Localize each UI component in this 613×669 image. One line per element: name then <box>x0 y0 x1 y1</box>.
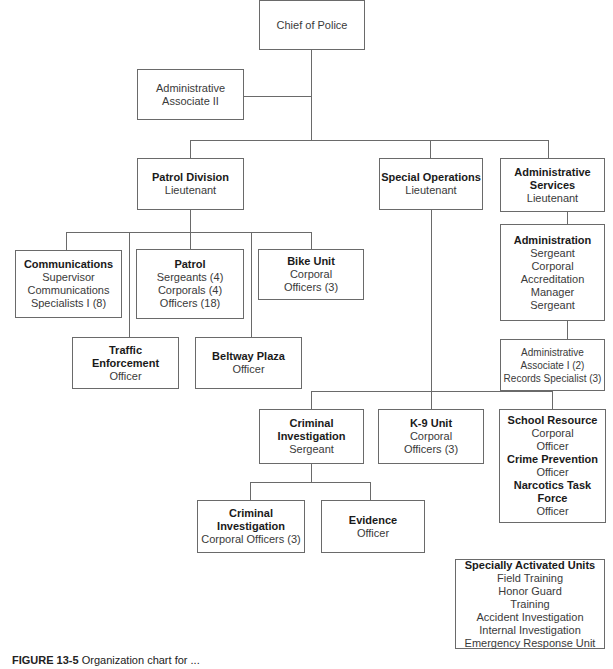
k9-unit-box: K-9 Unit Corporal Officers (3) <box>378 409 484 464</box>
crime-prevention-line: Officer <box>536 466 568 479</box>
figure-caption-text: Organization chart for ... <box>82 654 200 666</box>
ci-corporal-box: Criminal Investigation Corporal Officers… <box>197 500 305 553</box>
narcotics-title: Narcotics Task <box>514 479 591 492</box>
connector <box>190 140 548 141</box>
k9-line: Officers (3) <box>404 443 458 456</box>
specially-activated-line: Training <box>510 598 549 611</box>
connector <box>370 482 371 500</box>
specially-activated-title: Specially Activated Units <box>465 559 595 572</box>
patrol-division-rank: Lieutenant <box>165 184 216 197</box>
admin-assoc-ii-line: Associate II <box>162 95 219 108</box>
admin-support-line: Associate I (2) <box>521 359 585 372</box>
administrative-services-box: Administrative Services Lieutenant <box>500 158 605 212</box>
school-resource-title: School Resource <box>508 414 598 427</box>
beltway-plaza-box: Beltway Plaza Officer <box>195 337 302 389</box>
connector <box>190 210 191 232</box>
admin-assoc-ii-line: Administrative <box>156 82 225 95</box>
k9-line: Corporal <box>410 430 452 443</box>
connector <box>548 140 549 158</box>
patrol-division-title: Patrol Division <box>152 171 229 184</box>
admin-support-line: Administrative <box>521 346 584 359</box>
special-operations-title: Special Operations <box>381 171 481 184</box>
communications-line: Supervisor <box>42 271 95 284</box>
admin-support-line: Records Specialist (3) <box>504 372 602 385</box>
communications-box: Communications Supervisor Communications… <box>15 250 122 318</box>
patrol-line: Sergeants (4) <box>157 271 224 284</box>
school-resource-line: Corporal <box>531 427 573 440</box>
communications-line: Specialists I (8) <box>31 297 106 310</box>
specially-activated-line: Accident Investigation <box>476 611 583 624</box>
beltway-title: Beltway Plaza <box>212 350 285 363</box>
connector <box>129 232 130 337</box>
admin-services-title: Services <box>530 179 575 192</box>
connector <box>430 140 431 158</box>
connector <box>250 482 251 500</box>
specially-activated-line: Emergency Response Unit <box>465 637 596 650</box>
bike-unit-line: Corporal <box>290 268 332 281</box>
ci-corporal-title: Investigation <box>217 520 285 533</box>
admin-support-box: Administrative Associate I (2) Records S… <box>500 339 605 391</box>
administration-line: Sergeant <box>530 247 575 260</box>
school-resource-line: Officer <box>536 440 568 453</box>
connector <box>311 232 312 250</box>
connector <box>431 391 432 409</box>
traffic-title: Enforcement <box>92 357 159 370</box>
traffic-title: Traffic <box>109 344 142 357</box>
specially-activated-line: Field Training <box>497 572 563 585</box>
admin-services-rank: Lieutenant <box>527 192 578 205</box>
administration-title: Administration <box>514 234 592 247</box>
ci-title: Criminal <box>289 417 333 430</box>
criminal-investigation-box: Criminal Investigation Sergeant <box>259 409 364 464</box>
traffic-enforcement-box: Traffic Enforcement Officer <box>72 337 179 389</box>
evidence-box: Evidence Officer <box>321 500 425 553</box>
connector <box>190 140 191 158</box>
connector <box>311 391 312 409</box>
chief-of-police-box: Chief of Police <box>259 0 365 50</box>
evidence-title: Evidence <box>349 514 397 527</box>
connector <box>66 232 311 233</box>
bike-unit-line: Officers (3) <box>284 281 338 294</box>
connector <box>190 232 191 250</box>
evidence-line: Officer <box>357 527 389 540</box>
patrol-line: Corporals (4) <box>158 284 222 297</box>
connector <box>250 482 370 483</box>
narcotics-line: Officer <box>536 505 568 518</box>
patrol-division-box: Patrol Division Lieutenant <box>137 158 244 210</box>
connector <box>251 232 252 337</box>
connector <box>311 464 312 482</box>
ci-rank: Sergeant <box>289 443 334 456</box>
administration-line: Manager <box>531 286 574 299</box>
connector <box>66 232 67 250</box>
special-operations-rank: Lieutenant <box>405 184 456 197</box>
connector <box>552 391 553 409</box>
connector <box>567 321 568 339</box>
beltway-rank: Officer <box>232 363 264 376</box>
k9-title: K-9 Unit <box>410 417 452 430</box>
administration-line: Sergeant <box>530 299 575 312</box>
administration-box: Administration Sergeant Corporal Accredi… <box>500 224 605 321</box>
specially-activated-line: Honor Guard <box>498 585 562 598</box>
communications-title: Communications <box>24 258 113 271</box>
ci-title: Investigation <box>278 430 346 443</box>
patrol-line: Officers (18) <box>160 297 220 310</box>
narcotics-title: Force <box>538 492 568 505</box>
specially-activated-line: Internal Investigation <box>479 624 581 637</box>
connector <box>567 212 568 224</box>
figure-label: FIGURE 13-5 <box>12 654 79 666</box>
admin-services-title: Administrative <box>514 166 590 179</box>
admin-associate-ii-box: Administrative Associate II <box>137 69 244 120</box>
patrol-box: Patrol Sergeants (4) Corporals (4) Offic… <box>136 249 244 319</box>
specially-activated-units-box: Specially Activated Units Field Training… <box>455 559 605 649</box>
connector <box>311 50 312 140</box>
administration-line: Corporal <box>531 260 573 273</box>
crime-prevention-title: Crime Prevention <box>507 453 598 466</box>
bike-unit-box: Bike Unit Corporal Officers (3) <box>258 249 364 300</box>
special-operations-box: Special Operations Lieutenant <box>379 158 483 210</box>
chief-label: Chief of Police <box>277 19 348 32</box>
patrol-title: Patrol <box>174 258 205 271</box>
bike-unit-title: Bike Unit <box>287 255 335 268</box>
ci-corporal-line: Corporal Officers (3) <box>201 533 300 546</box>
figure-caption: FIGURE 13-5 Organization chart for ... <box>12 654 200 666</box>
school-resource-box: School Resource Corporal Officer Crime P… <box>499 409 606 523</box>
communications-line: Communications <box>28 284 110 297</box>
